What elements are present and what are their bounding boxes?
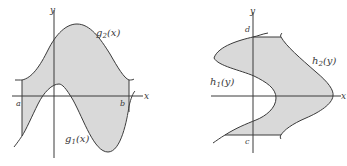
label-h1: h1(y) (210, 76, 234, 89)
bound-a-label: a (16, 99, 21, 108)
y-axis-label-right: y (249, 6, 256, 16)
right-diagram: y x d c h1(y) h2(y) (210, 6, 346, 153)
label-g2: g2(x) (96, 27, 120, 40)
bound-c-label: c (245, 137, 250, 146)
area-between-curves-figure: y x a b g2(x) g1(x) y x d c h1(y) h2(y) (0, 0, 347, 166)
label-g1: g1(x) (65, 133, 89, 146)
y-axis-label-left: y (49, 5, 56, 15)
label-h2: h2(y) (312, 55, 336, 68)
x-axis-label-left: x (144, 91, 149, 101)
left-diagram: y x a b g2(x) g1(x) (12, 5, 149, 158)
bound-b-label: b (120, 99, 125, 108)
x-axis-label-right: x (341, 91, 346, 101)
bound-d-label: d (245, 25, 250, 34)
